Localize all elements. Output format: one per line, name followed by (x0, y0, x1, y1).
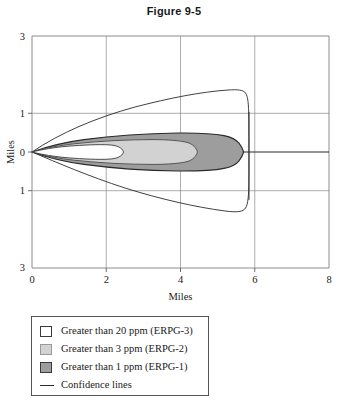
legend-label-erpg-1: Greater than 1 ppm (ERPG-1) (61, 362, 188, 373)
legend-item-confidence-lines: Confidence lines (40, 376, 208, 394)
legend-label-erpg-2: Greater than 3 ppm (ERPG-2) (61, 344, 188, 355)
legend-item-erpg-1: Greater than 1 ppm (ERPG-1) (40, 358, 208, 376)
y-tick-label-1-top: 1 (20, 108, 25, 119)
legend-label-confidence-lines: Confidence lines (61, 380, 132, 391)
x-tick-label-8: 8 (326, 274, 331, 285)
plot-svg: 0 2 4 6 8 3 1 0 1 3 Miles Miles (0, 0, 348, 300)
legend-item-erpg-2: Greater than 3 ppm (ERPG-2) (40, 340, 208, 358)
x-tick-label-4: 4 (178, 274, 184, 285)
legend-swatch-erpg-1-icon (40, 362, 52, 373)
footnote (0, 404, 348, 414)
x-axis-title: Miles (169, 291, 193, 300)
y-tick-label-3-bottom: 3 (20, 262, 25, 273)
plot-area: 0 2 4 6 8 3 1 0 1 3 Miles Miles (0, 0, 348, 300)
legend-item-erpg-3: Greater than 20 ppm (ERPG-3) (40, 322, 208, 340)
y-tick-label-1-bottom: 1 (20, 185, 25, 196)
y-tick-label-3-top: 3 (20, 31, 25, 42)
legend-swatch-erpg-2-icon (40, 344, 52, 355)
legend-swatch-confidence-line-icon (40, 385, 54, 386)
plume-erpg-3 (32, 145, 124, 160)
x-tick-label-0: 0 (29, 274, 34, 285)
x-tick-label-2: 2 (104, 274, 109, 285)
x-tick-label-6: 6 (252, 274, 257, 285)
legend-label-erpg-3: Greater than 20 ppm (ERPG-3) (61, 326, 193, 337)
y-axis-title: Miles (5, 140, 16, 164)
legend-swatch-erpg-3-icon (40, 326, 52, 337)
legend: Greater than 20 ppm (ERPG-3) Greater tha… (31, 316, 209, 396)
y-tick-label-0: 0 (20, 147, 25, 158)
